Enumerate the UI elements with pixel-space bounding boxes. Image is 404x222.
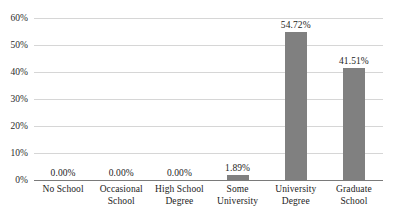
bar-value-label: 0.00%	[167, 168, 192, 178]
y-axis-tick-label: 40%	[0, 67, 28, 77]
x-axis-label-line-1: Occasional	[100, 184, 143, 194]
bar-value-label: 54.72%	[281, 20, 311, 30]
y-axis-tick-label: 20%	[0, 121, 28, 131]
x-axis-category-label: No School	[34, 183, 92, 195]
y-axis-tick-label: 60%	[0, 13, 28, 23]
y-axis-tick-label: 10%	[0, 148, 28, 158]
x-axis-label-line-2: University	[209, 195, 267, 207]
bar-slot: 41.51%	[325, 18, 383, 180]
x-axis-category-label: OccasionalSchool	[92, 183, 150, 207]
bar-slot: 54.72%	[267, 18, 325, 180]
x-axis-label-line-1: High School	[155, 184, 204, 194]
x-axis-category-label: GraduateSchool	[325, 183, 383, 207]
bar-slot: 1.89%	[209, 18, 267, 180]
y-axis-tick-label: 0%	[0, 175, 28, 185]
bar-value-label: 0.00%	[109, 168, 134, 178]
x-axis-label-line-2: Degree	[267, 195, 325, 207]
x-axis-label-line-2: School	[325, 195, 383, 207]
bar-value-label: 1.89%	[225, 163, 250, 173]
bar-slot: 0.00%	[92, 18, 150, 180]
bar[interactable]	[343, 68, 365, 180]
bar[interactable]	[285, 32, 307, 180]
bar-chart: 0%10%20%30%40%50%60% 0.00%0.00%0.00%1.89…	[0, 0, 404, 222]
y-axis-tick-label: 50%	[0, 40, 28, 50]
x-axis-label-line-2: Degree	[150, 195, 208, 207]
x-axis-label-line-2: School	[92, 195, 150, 207]
bar-slot: 0.00%	[34, 18, 92, 180]
bar-value-label: 41.51%	[339, 56, 369, 66]
plot-area: 0.00%0.00%0.00%1.89%54.72%41.51%	[34, 18, 383, 180]
x-axis-label-line-1: No School	[42, 184, 83, 194]
x-axis-label-line-1: University	[275, 184, 316, 194]
x-axis-category-label: High SchoolDegree	[150, 183, 208, 207]
y-axis-tick-label: 30%	[0, 94, 28, 104]
x-axis-label-line-1: Some	[227, 184, 249, 194]
x-axis-label-line-1: Graduate	[336, 184, 372, 194]
bar[interactable]	[227, 175, 249, 180]
x-axis-category-label: SomeUniversity	[209, 183, 267, 207]
x-axis-category-label: UniversityDegree	[267, 183, 325, 207]
x-axis: No SchoolOccasionalSchoolHigh SchoolDegr…	[34, 183, 383, 221]
bar-slot: 0.00%	[150, 18, 208, 180]
bar-value-label: 0.00%	[51, 168, 76, 178]
